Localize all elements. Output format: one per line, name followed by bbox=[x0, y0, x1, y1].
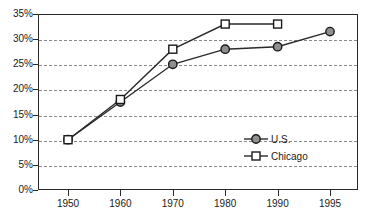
legend-item-u-s: U.S. bbox=[243, 131, 290, 147]
x-axis-tick-label: 1960 bbox=[95, 198, 145, 210]
x-axis-tick-label: 1980 bbox=[200, 198, 250, 210]
legend-item-chicago: Chicago bbox=[243, 148, 308, 164]
data-point-chicago bbox=[221, 20, 229, 28]
legend-label: U.S. bbox=[269, 134, 290, 145]
data-point-chicago bbox=[169, 45, 177, 53]
data-point-chicago bbox=[64, 136, 72, 144]
chart-legend: U.S.Chicago bbox=[243, 131, 329, 167]
x-axis-tick-mark bbox=[68, 190, 69, 196]
x-axis-tick-mark bbox=[120, 190, 121, 196]
data-point-u-s bbox=[169, 60, 177, 68]
series-line-chicago bbox=[68, 24, 278, 140]
x-axis-tick-mark bbox=[173, 190, 174, 196]
hollow-square-marker-icon bbox=[243, 148, 269, 164]
data-point-u-s bbox=[273, 42, 281, 50]
data-point-u-s bbox=[326, 27, 334, 35]
x-axis-ticks bbox=[38, 190, 358, 196]
legend-label: Chicago bbox=[269, 151, 308, 162]
filled-circle-marker-icon bbox=[243, 131, 269, 147]
x-axis-labels: 195019601970198019901995 bbox=[38, 198, 358, 214]
x-axis-tick-mark bbox=[225, 190, 226, 196]
x-axis-tick-label: 1970 bbox=[148, 198, 198, 210]
data-point-u-s bbox=[221, 45, 229, 53]
x-axis-tick-mark bbox=[330, 190, 331, 196]
data-point-chicago bbox=[116, 95, 124, 103]
series-line-u-s bbox=[68, 32, 330, 140]
y-axis-ticks bbox=[0, 14, 38, 190]
x-axis-tick-label: 1995 bbox=[305, 198, 355, 210]
data-point-chicago bbox=[274, 20, 282, 28]
x-axis-tick-label: 1990 bbox=[253, 198, 303, 210]
x-axis-tick-mark bbox=[278, 190, 279, 196]
line-chart: 0%5%10%15%20%25%30%35% 19501960197019801… bbox=[0, 0, 370, 223]
x-axis-tick-label: 1950 bbox=[43, 198, 93, 210]
